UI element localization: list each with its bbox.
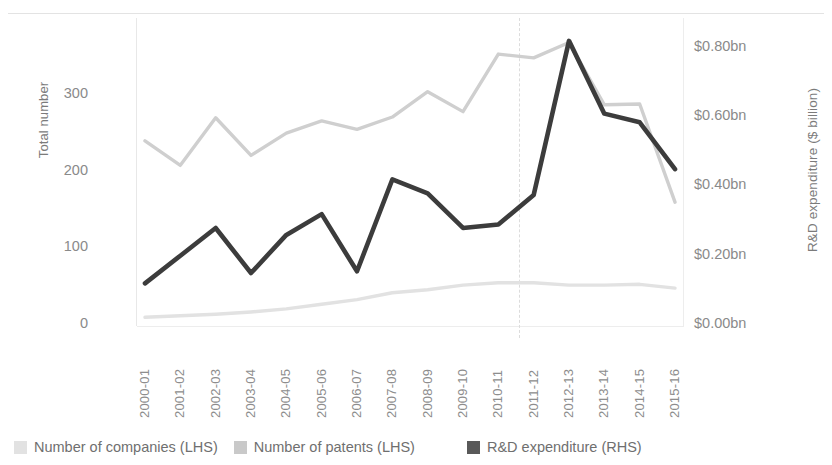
x-label-2000-01: 2000-01	[137, 332, 153, 418]
x-label-2006-07: 2006-07	[349, 332, 365, 418]
legend-label-1: Number of patents (LHS)	[254, 439, 415, 455]
series-lines	[137, 18, 683, 325]
right-tick-0: $0.00bn	[694, 315, 774, 331]
legend-label-0: Number of companies (LHS)	[34, 439, 218, 455]
series-line-1	[145, 43, 675, 203]
x-axis-category-labels: 2000-012001-022002-032003-042004-052005-…	[137, 332, 684, 420]
legend-item-2[interactable]: R&D expenditure (RHS)	[467, 439, 642, 455]
plot-area	[137, 18, 683, 325]
x-label-2011-12: 2011-12	[526, 332, 542, 418]
chart-legend: Number of companies (LHS)Number of paten…	[14, 436, 824, 458]
chart-root: Total number R&D expenditure ($ billion)…	[0, 0, 832, 465]
left-tick-300: 300	[28, 85, 88, 101]
x-label-2008-09: 2008-09	[420, 332, 436, 418]
x-label-2012-13: 2012-13	[561, 332, 577, 418]
right-tick-4: $0.80bn	[694, 38, 774, 54]
x-label-2001-02: 2001-02	[172, 332, 188, 418]
left-tick-100: 100	[28, 238, 88, 254]
legend-item-1[interactable]: Number of patents (LHS)	[234, 439, 415, 455]
x-label-2013-14: 2013-14	[596, 332, 612, 418]
x-label-2015-16: 2015-16	[667, 332, 683, 418]
left-tick-0: 0	[28, 315, 88, 331]
legend-swatch-icon-2	[467, 441, 480, 454]
legend-item-0[interactable]: Number of companies (LHS)	[14, 439, 218, 455]
right-tick-2: $0.40bn	[694, 176, 774, 192]
x-label-2010-11: 2010-11	[490, 332, 506, 418]
legend-label-2: R&D expenditure (RHS)	[487, 439, 642, 455]
left-tick-200: 200	[28, 162, 88, 178]
legend-swatch-icon-0	[14, 441, 27, 454]
legend-swatch-icon-1	[234, 441, 247, 454]
series-line-2	[145, 41, 675, 284]
right-axis-line	[683, 18, 684, 326]
series-line-0	[145, 283, 675, 318]
left-axis-title: Total number	[36, 0, 54, 270]
right-tick-1: $0.20bn	[694, 246, 774, 262]
x-label-2004-05: 2004-05	[278, 332, 294, 418]
x-axis-line	[137, 326, 684, 327]
right-tick-3: $0.60bn	[694, 107, 774, 123]
x-label-2009-10: 2009-10	[455, 332, 471, 418]
x-label-2002-03: 2002-03	[208, 332, 224, 418]
x-label-2005-06: 2005-06	[314, 332, 330, 418]
x-label-2007-08: 2007-08	[384, 332, 400, 418]
top-divider-rule	[8, 13, 824, 14]
x-label-2003-04: 2003-04	[243, 332, 259, 418]
x-label-2014-15: 2014-15	[632, 332, 648, 418]
right-axis-title: R&D expenditure ($ billion)	[805, 5, 823, 335]
